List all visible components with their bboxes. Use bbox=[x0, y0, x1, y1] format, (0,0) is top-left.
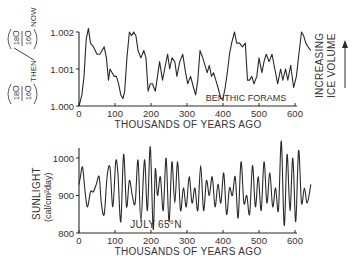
ylabel-then: THEN bbox=[29, 60, 38, 82]
ylabel-den1: 16O bbox=[23, 85, 33, 100]
x-tick-label: 100 bbox=[107, 108, 123, 119]
bottom-chart-x-axis-title: THOUSANDS OF YEARS AGO bbox=[114, 246, 261, 257]
bottom-chart-y-axis-title: SUNLIGHT (cal/cm²day) bbox=[31, 167, 53, 222]
side-label-ice-volume: ICE VOLUME bbox=[326, 33, 337, 98]
top-chart: 1.0001.0011.002 0100200300400500600 BENT… bbox=[8, 7, 348, 130]
y-tick-label: 1000 bbox=[53, 153, 74, 164]
annotation-july-65n: JULY 65°N bbox=[130, 219, 181, 230]
up-arrow-icon bbox=[342, 40, 348, 88]
x-tick-label: 400 bbox=[215, 235, 231, 246]
bottom-chart: 8009001000 0100200300400500600 JULY 65°N… bbox=[31, 141, 311, 257]
y-tick-label: 900 bbox=[58, 190, 74, 201]
y-tick-label: 1.002 bbox=[50, 27, 74, 38]
ylabel-now: NOW bbox=[29, 7, 38, 27]
top-chart-y-ticks: 1.0001.0011.002 bbox=[50, 27, 79, 112]
bottom-chart-x-ticks: 0100200300400500600 bbox=[76, 230, 303, 246]
ylabel-sunlight: SUNLIGHT bbox=[31, 167, 42, 220]
x-tick-label: 0 bbox=[76, 235, 81, 246]
ylabel-units: (cal/cm²day) bbox=[43, 172, 53, 222]
increasing-ice-volume-label: INCREASING ICE VOLUME bbox=[314, 33, 337, 98]
x-tick-label: 100 bbox=[107, 235, 123, 246]
top-chart-x-ticks: 0100200300400500600 bbox=[76, 103, 303, 119]
y-tick-label: 800 bbox=[58, 228, 74, 239]
annotation-benthic-forams: BENTHIC FORAMS bbox=[206, 93, 287, 103]
top-chart-y-axis-title: 18O 16O THEN 18O 16O NOW bbox=[8, 7, 38, 104]
x-tick-label: 400 bbox=[215, 108, 231, 119]
x-tick-label: 600 bbox=[287, 108, 303, 119]
ylabel-den2: 16O bbox=[23, 30, 33, 45]
x-tick-label: 300 bbox=[179, 108, 195, 119]
x-tick-label: 600 bbox=[287, 235, 303, 246]
paren-close-2 bbox=[34, 29, 37, 49]
bottom-chart-y-ticks: 8009001000 bbox=[53, 153, 79, 239]
x-tick-label: 300 bbox=[179, 235, 195, 246]
top-chart-x-axis-title: THOUSANDS OF YEARS AGO bbox=[114, 119, 261, 130]
x-tick-label: 200 bbox=[143, 108, 159, 119]
x-tick-label: 500 bbox=[251, 235, 267, 246]
division-slash bbox=[14, 48, 34, 60]
y-tick-label: 1.001 bbox=[50, 64, 74, 75]
ylabel-num2: 18O bbox=[11, 30, 21, 45]
ylabel-num1: 18O bbox=[11, 85, 21, 100]
x-tick-label: 200 bbox=[143, 235, 159, 246]
paren-close-1 bbox=[34, 84, 37, 104]
y-tick-label: 1.000 bbox=[50, 101, 74, 112]
side-label-increasing: INCREASING bbox=[314, 33, 325, 98]
july-insolation-series bbox=[79, 141, 311, 229]
x-tick-label: 500 bbox=[251, 108, 267, 119]
x-tick-label: 0 bbox=[76, 108, 81, 119]
paleoclimate-figure: 1.0001.0011.002 0100200300400500600 BENT… bbox=[0, 0, 357, 270]
